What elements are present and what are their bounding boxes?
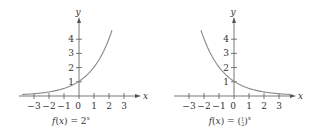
function-curve bbox=[22, 30, 112, 94]
x-tick-label: −2 bbox=[42, 101, 55, 111]
x-tick-label: 3 bbox=[121, 101, 127, 111]
x-tick-label: 3 bbox=[276, 101, 282, 111]
x-axis-label: x bbox=[298, 91, 303, 101]
x-tick-label: 0 bbox=[75, 101, 81, 111]
graph-1: −3−2−101231234xyf(x) = 2x bbox=[19, 7, 148, 126]
y-tick-label: 3 bbox=[68, 48, 74, 58]
x-tick-label: −3 bbox=[182, 101, 196, 111]
function-caption: f(x) = (12)x bbox=[208, 114, 252, 127]
y-tick-label: 2 bbox=[68, 63, 74, 73]
x-tick-label: −1 bbox=[57, 101, 70, 111]
function-curve bbox=[201, 30, 291, 94]
y-tick-label: 4 bbox=[68, 34, 74, 44]
x-tick-label: 2 bbox=[106, 101, 112, 111]
y-tick-label: 4 bbox=[223, 34, 229, 44]
y-axis-arrow-icon bbox=[232, 17, 236, 23]
y-tick-label: 3 bbox=[223, 48, 229, 58]
figure: −3−2−101231234xyf(x) = 2x−3−2−101231234x… bbox=[0, 0, 312, 137]
x-tick-label: −3 bbox=[27, 101, 41, 111]
y-axis-label: y bbox=[74, 7, 81, 17]
y-axis-label: y bbox=[229, 7, 236, 17]
x-tick-label: 2 bbox=[261, 101, 267, 111]
x-tick-label: 0 bbox=[230, 101, 236, 111]
x-tick-label: −2 bbox=[197, 101, 210, 111]
graph-2: −3−2−101231234xyf(x) = (12)x bbox=[174, 7, 303, 127]
y-tick-label: 1 bbox=[223, 77, 229, 87]
x-tick-label: 1 bbox=[91, 101, 97, 111]
x-tick-label: −1 bbox=[212, 101, 225, 111]
function-caption: f(x) = 2x bbox=[51, 114, 90, 126]
x-axis-label: x bbox=[143, 91, 148, 101]
y-tick-label: 2 bbox=[223, 63, 229, 73]
x-axis-arrow-icon bbox=[135, 94, 141, 98]
y-axis-arrow-icon bbox=[77, 17, 81, 23]
x-tick-label: 1 bbox=[246, 101, 252, 111]
